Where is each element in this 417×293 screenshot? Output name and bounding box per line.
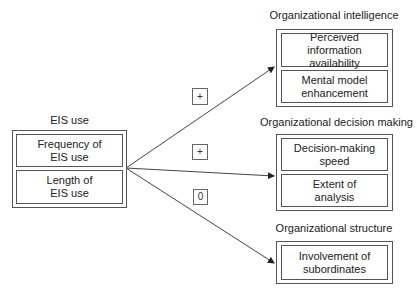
target-group-box-structure: Involvement of subordinates bbox=[276, 241, 393, 284]
target-item-label: Mental model enhancement bbox=[301, 74, 368, 100]
target-item-extent-of-analysis: Extent of analysis bbox=[281, 174, 388, 207]
sign-label: + bbox=[197, 147, 203, 157]
target-item-decision-speed: Decision-making speed bbox=[281, 138, 388, 171]
target-item-involvement-subordinates: Involvement of subordinates bbox=[281, 245, 388, 280]
arrow-to-decision-making bbox=[126, 168, 274, 176]
source-item-label: Length of EIS use bbox=[47, 174, 93, 200]
source-item-length: Length of EIS use bbox=[16, 170, 123, 204]
sign-badge-intelligence: + bbox=[192, 88, 208, 105]
target-item-label: Decision-making speed bbox=[294, 142, 375, 168]
arrow-to-structure bbox=[126, 168, 274, 263]
target-item-label: Extent of analysis bbox=[313, 178, 356, 204]
target-group-title-structure: Organizational structure bbox=[270, 222, 398, 235]
target-item-mental-model: Mental model enhancement bbox=[281, 70, 388, 103]
source-group-title: EIS use bbox=[12, 114, 127, 127]
source-item-label: Frequency of EIS use bbox=[37, 138, 101, 164]
target-item-label: Perceived information availability bbox=[282, 31, 387, 70]
source-group-box: Frequency of EIS use Length of EIS use bbox=[12, 130, 127, 208]
sign-label: + bbox=[197, 92, 203, 102]
sign-badge-structure: 0 bbox=[193, 189, 208, 205]
target-group-box-decision-making: Decision-making speed Extent of analysis bbox=[276, 134, 393, 211]
sign-badge-decision-making: + bbox=[192, 144, 208, 160]
target-group-title-intelligence: Organizational intelligence bbox=[262, 9, 406, 22]
target-item-label: Involvement of subordinates bbox=[299, 250, 371, 276]
source-item-frequency: Frequency of EIS use bbox=[16, 134, 123, 167]
target-group-box-intelligence: Perceived information availability Menta… bbox=[276, 29, 393, 107]
target-item-perceived-information: Perceived information availability bbox=[281, 33, 388, 67]
target-group-title-decision-making: Organizational decision making bbox=[260, 116, 410, 129]
sign-label: 0 bbox=[198, 192, 204, 202]
